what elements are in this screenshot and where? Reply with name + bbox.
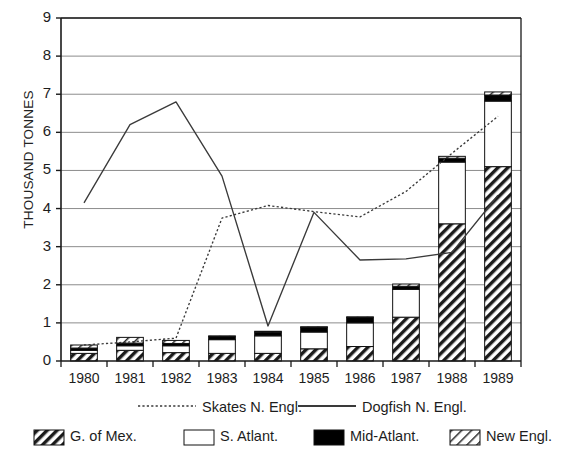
legend-bar-label: G. of Mex. xyxy=(70,428,137,444)
chart-figure: THOUSAND TONNES 0123456789 1980198119821… xyxy=(0,0,561,462)
bar-segment xyxy=(163,346,190,353)
legend-bar-label: S. Atlant. xyxy=(220,428,278,444)
bar-segment xyxy=(301,327,328,332)
bar-segment xyxy=(117,350,144,361)
bar-segment xyxy=(439,158,466,162)
x-tick-label: 1980 xyxy=(58,370,110,386)
bar-segment xyxy=(393,317,420,361)
bar-segment xyxy=(209,340,236,354)
bar-segment xyxy=(347,347,374,361)
x-tick-label: 1982 xyxy=(150,370,202,386)
chart-canvas xyxy=(0,0,561,462)
y-tick-label: 7 xyxy=(25,84,51,101)
bar-segment xyxy=(71,353,98,361)
bar-segment xyxy=(347,317,374,318)
bar-segment xyxy=(347,318,374,323)
y-tick-label: 5 xyxy=(25,160,51,177)
y-tick-label: 9 xyxy=(25,8,51,25)
bar-segment xyxy=(301,327,328,328)
x-tick-label: 1987 xyxy=(380,370,432,386)
x-tick-label: 1989 xyxy=(472,370,524,386)
legend-bar-label: Mid-Atlant. xyxy=(350,428,419,444)
legend-bar-swatch xyxy=(184,430,214,445)
y-tick-label: 8 xyxy=(25,46,51,63)
bar-segment xyxy=(485,92,512,95)
bar-segment xyxy=(163,340,190,343)
bar-segment xyxy=(439,162,466,224)
y-tick-label: 0 xyxy=(25,351,51,368)
bar-segment xyxy=(163,353,190,361)
legend-bar-label: New Engl. xyxy=(486,428,552,444)
bar-segment xyxy=(347,323,374,347)
bar-segment xyxy=(301,349,328,361)
bar-segment xyxy=(209,353,236,361)
y-tick-label: 6 xyxy=(25,122,51,139)
y-tick-label: 4 xyxy=(25,199,51,216)
bar-segment xyxy=(255,353,282,361)
bar-segment xyxy=(485,95,512,101)
x-tick-label: 1983 xyxy=(196,370,248,386)
legend-bar-swatch xyxy=(450,430,480,445)
data-line xyxy=(84,116,498,345)
bar-segment xyxy=(301,332,328,349)
bar-segment xyxy=(393,289,420,317)
x-tick-label: 1986 xyxy=(334,370,386,386)
bar-segment xyxy=(485,101,512,167)
bar-segment xyxy=(393,284,420,286)
x-tick-label: 1985 xyxy=(288,370,340,386)
bar-segment xyxy=(439,156,466,158)
legend-line-label: Dogfish N. Engl. xyxy=(362,399,467,415)
y-tick-label: 2 xyxy=(25,275,51,292)
y-tick-label: 3 xyxy=(25,237,51,254)
bar-segment xyxy=(255,332,282,336)
line-series xyxy=(84,102,498,345)
bar-segment xyxy=(439,224,466,361)
x-tick-label: 1988 xyxy=(426,370,478,386)
bar-segment xyxy=(255,331,282,332)
x-tick-label: 1984 xyxy=(242,370,294,386)
legend-line-label: Skates N. Engl. xyxy=(202,399,302,415)
y-tick-label: 1 xyxy=(25,313,51,330)
legend-bar-swatch xyxy=(314,430,344,445)
data-line xyxy=(84,102,498,326)
bar-segment xyxy=(255,336,282,354)
bar-segment xyxy=(71,345,98,348)
legend-bar-swatch xyxy=(34,430,64,445)
bar-segment xyxy=(209,336,236,337)
x-tick-label: 1981 xyxy=(104,370,156,386)
bar-segment xyxy=(117,346,144,351)
